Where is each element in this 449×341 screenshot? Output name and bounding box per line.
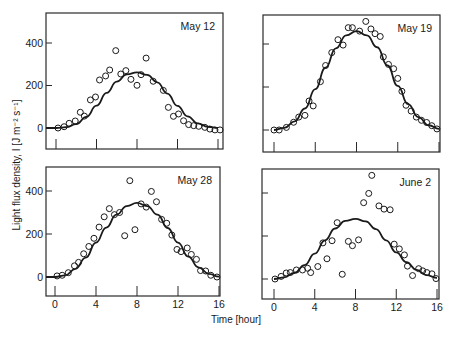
data-point [106,206,112,212]
data-point [361,200,367,206]
data-point [324,256,330,262]
data-point [366,190,372,196]
y-tick-label: 0 [37,122,43,134]
measured-points [272,172,439,282]
data-point [377,33,383,39]
data-point [132,227,138,233]
figure: 0200400May 12May 1902004000481216May 280… [0,0,449,341]
panel-june-2: 0481216June 2 [262,169,443,313]
data-point [193,256,199,262]
x-tick-label: 4 [93,298,99,310]
model-curve [46,72,218,128]
data-point [410,273,416,279]
data-point [308,270,314,276]
panel-date-label: May 28 [178,174,213,186]
data-point [148,188,154,194]
panels-group: 0200400May 12May 1902004000481216May 280… [25,13,443,313]
panel-frame [263,15,440,152]
panel-may-28: 02004000481216May 28 [25,167,225,310]
data-point [401,252,407,258]
x-tick-label: 16 [431,301,443,313]
measured-points [271,18,440,133]
data-point [396,246,402,252]
x-tick-label: 8 [353,301,359,313]
data-point [176,111,182,117]
data-point [387,207,393,213]
data-point [302,112,308,118]
data-point [335,37,341,43]
data-point [134,82,140,88]
y-tick-label: 200 [25,79,43,91]
x-tick-label: 4 [312,301,318,313]
panel-may-19: May 19 [263,15,440,152]
data-point [349,243,355,249]
x-axis-title: Time [hour] [211,314,261,325]
data-point [92,94,98,100]
data-point [91,235,97,241]
data-point [310,103,316,109]
data-point [184,245,190,251]
data-point [349,25,355,31]
data-point [101,214,107,220]
panel-date-label: May 12 [181,20,216,32]
data-point [165,104,171,110]
data-point [381,206,387,212]
data-point [81,251,87,257]
data-point [143,55,149,61]
x-tick-label: 8 [134,298,140,310]
data-point [123,68,129,74]
data-point [363,18,369,24]
data-point [97,77,103,83]
data-point [315,264,321,270]
data-point [113,48,119,54]
data-point [339,271,345,277]
data-point [128,76,134,82]
panel-date-label: June 2 [399,176,431,188]
data-point [369,172,375,178]
data-point [329,238,335,244]
data-point [122,233,128,239]
measured-points [55,48,223,133]
y-axis-title: Light flux density, I [J m⁻² s⁻¹] [11,99,22,230]
data-point [356,237,362,243]
x-tick-label: 0 [52,298,58,310]
panel-may-12: 0200400May 12 [25,13,223,149]
data-point [107,67,113,73]
data-point [153,199,159,205]
data-point [127,178,133,184]
y-tick-label: 0 [37,271,43,283]
x-tick-label: 0 [271,301,277,313]
data-point [395,75,401,81]
model-curve [274,219,437,279]
panel-date-label: May 19 [398,22,433,34]
data-point [103,73,109,79]
x-tick-label: 12 [390,301,402,313]
x-tick-label: 16 [213,298,225,310]
x-tick-label: 12 [172,298,184,310]
y-tick-label: 400 [25,37,43,49]
y-tick-label: 200 [25,228,43,240]
y-tick-label: 400 [25,185,43,197]
panel-frame [262,169,439,299]
data-point [96,224,102,230]
